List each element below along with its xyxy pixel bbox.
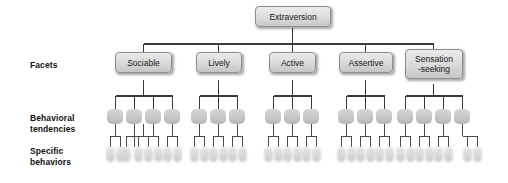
node-specific-behavior[interactable] xyxy=(337,147,346,162)
node-specific-behavior[interactable] xyxy=(144,147,153,162)
node-specific-behavior[interactable] xyxy=(366,147,375,162)
node-behavioral-tendency[interactable] xyxy=(191,109,207,124)
node-behavioral-tendency[interactable] xyxy=(210,109,226,124)
node-specific-behavior[interactable] xyxy=(385,147,394,162)
node-behavioral-tendency[interactable] xyxy=(145,109,161,124)
node-facet-sensation-seeking[interactable]: Sensation -seeking xyxy=(405,49,463,79)
node-behavioral-tendency[interactable] xyxy=(303,109,319,124)
node-facet-sociable[interactable]: Sociable xyxy=(115,52,172,73)
node-behavioral-tendency[interactable] xyxy=(397,109,413,124)
node-specific-behavior[interactable] xyxy=(406,147,415,162)
node-behavioral-tendency[interactable] xyxy=(338,109,354,124)
node-behavioral-tendency[interactable] xyxy=(164,109,180,124)
node-specific-behavior[interactable] xyxy=(356,147,365,162)
diagram-canvas: Facets Behavioral tendencies Specific be… xyxy=(0,0,508,183)
node-specific-behavior[interactable] xyxy=(347,147,356,162)
node-specific-behavior[interactable] xyxy=(134,147,143,162)
node-behavioral-tendency[interactable] xyxy=(284,109,300,124)
node-specific-behavior[interactable] xyxy=(238,147,247,162)
node-behavioral-tendency[interactable] xyxy=(454,109,470,124)
node-specific-behavior[interactable] xyxy=(463,147,472,162)
node-behavioral-tendency[interactable] xyxy=(416,109,432,124)
node-behavioral-tendency[interactable] xyxy=(435,109,451,124)
node-specific-behavior[interactable] xyxy=(163,147,172,162)
node-behavioral-tendency[interactable] xyxy=(265,109,281,124)
node-facet-lively[interactable]: Lively xyxy=(196,52,242,73)
node-specific-behavior[interactable] xyxy=(444,147,453,162)
node-specific-behavior[interactable] xyxy=(209,147,218,162)
row-label-specific-behaviors: Specific behaviors xyxy=(30,146,71,168)
node-specific-behavior[interactable] xyxy=(283,147,292,162)
node-specific-behavior[interactable] xyxy=(425,147,434,162)
node-specific-behavior[interactable] xyxy=(228,147,237,162)
node-specific-behavior[interactable] xyxy=(219,147,228,162)
node-specific-behavior[interactable] xyxy=(106,147,115,162)
node-specific-behavior[interactable] xyxy=(200,147,209,162)
node-behavioral-tendency[interactable] xyxy=(376,109,392,124)
node-facet-active[interactable]: Active xyxy=(269,52,316,73)
node-specific-behavior[interactable] xyxy=(415,147,424,162)
node-specific-behavior[interactable] xyxy=(154,147,163,162)
node-specific-behavior[interactable] xyxy=(312,147,321,162)
row-label-behavioral-tendencies: Behavioral tendencies xyxy=(30,113,75,135)
node-specific-behavior[interactable] xyxy=(473,147,482,162)
node-specific-behavior[interactable] xyxy=(293,147,302,162)
node-specific-behavior[interactable] xyxy=(375,147,384,162)
node-specific-behavior[interactable] xyxy=(264,147,273,162)
node-behavioral-tendency[interactable] xyxy=(107,109,123,124)
node-facet-assertive[interactable]: Assertive xyxy=(339,52,393,73)
node-extraversion[interactable]: Extraversion xyxy=(255,6,331,27)
node-specific-behavior[interactable] xyxy=(396,147,405,162)
node-specific-behavior[interactable] xyxy=(190,147,199,162)
node-behavioral-tendency[interactable] xyxy=(126,109,142,124)
node-behavioral-tendency[interactable] xyxy=(229,109,245,124)
node-specific-behavior[interactable] xyxy=(173,147,182,162)
node-specific-behavior[interactable] xyxy=(122,147,131,162)
node-behavioral-tendency[interactable] xyxy=(357,109,373,124)
row-label-facets: Facets xyxy=(30,60,58,71)
node-specific-behavior[interactable] xyxy=(302,147,311,162)
node-specific-behavior[interactable] xyxy=(434,147,443,162)
node-specific-behavior[interactable] xyxy=(274,147,283,162)
